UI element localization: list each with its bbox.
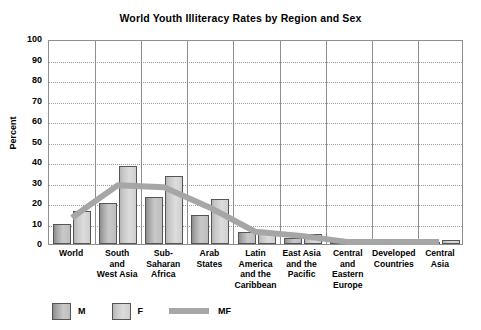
x-label-line: Central	[333, 248, 363, 258]
legend-item-mf: MF	[169, 306, 231, 316]
chart-title: World Youth Illiteracy Rates by Region a…	[0, 12, 481, 24]
x-axis-category-labels: WorldSouthandWest AsiaSub-SaharanAfricaA…	[48, 248, 463, 306]
y-tick-label: 40	[8, 157, 42, 167]
x-label-line: and	[340, 259, 355, 269]
x-label-line: and the	[240, 269, 271, 279]
x-label-line: America	[239, 259, 273, 269]
y-tick-label: 0	[8, 239, 42, 249]
x-label-line: Sub-	[154, 248, 173, 258]
x-label-3: ArabStates	[183, 248, 235, 269]
mf-polyline	[72, 185, 439, 242]
legend-swatch-m-icon	[52, 303, 71, 320]
x-label-line: Pacific	[288, 269, 316, 279]
legend-item-f: F	[112, 303, 144, 320]
x-label-6: CentralandEasternEurope	[322, 248, 374, 290]
x-label-line: Developed	[372, 248, 415, 258]
x-label-7: DevelopedCountries	[368, 248, 420, 269]
y-tick-label: 50	[8, 137, 42, 147]
y-tick-label: 80	[8, 75, 42, 85]
x-label-line: Europe	[333, 280, 363, 290]
x-label-2: Sub-SaharanAfrica	[137, 248, 189, 280]
x-label-0: World	[45, 248, 97, 259]
legend-swatch-mf-icon	[169, 308, 209, 314]
x-label-line: Africa	[151, 269, 175, 279]
legend-label-f: F	[138, 306, 144, 316]
y-tick-label: 10	[8, 219, 42, 229]
x-label-line: Saharan	[146, 259, 180, 269]
x-label-line: Eastern	[332, 269, 364, 279]
x-label-line: and the	[286, 259, 317, 269]
y-tick-label: 100	[8, 34, 42, 44]
chart-container: World Youth Illiteracy Rates by Region a…	[0, 0, 481, 330]
x-label-line: States	[196, 259, 222, 269]
x-label-line: Caribbean	[234, 280, 276, 290]
x-label-line: Arab	[200, 248, 220, 258]
x-label-1: SouthandWest Asia	[91, 248, 143, 280]
legend-swatch-f-icon	[112, 303, 131, 320]
x-label-line: Latin	[245, 248, 266, 258]
y-tick-label: 20	[8, 198, 42, 208]
y-tick-label: 90	[8, 55, 42, 65]
mf-trend-line	[49, 41, 462, 244]
legend-item-m: M	[52, 303, 86, 320]
x-label-line: World	[59, 248, 83, 258]
plot-area	[48, 40, 463, 245]
x-label-line: Countries	[374, 259, 414, 269]
y-tick-label: 30	[8, 178, 42, 188]
x-label-line: West Asia	[97, 269, 138, 279]
x-label-line: East Asia	[282, 248, 320, 258]
legend-label-mf: MF	[218, 306, 231, 316]
y-axis-title: Percent	[8, 103, 18, 163]
legend-label-m: M	[78, 306, 86, 316]
x-label-line: Central	[425, 248, 455, 258]
x-label-4: LatinAmericaand theCaribbean	[229, 248, 281, 290]
x-label-5: East Asiaand thePacific	[276, 248, 328, 280]
y-tick-label: 60	[8, 116, 42, 126]
x-label-line: Asia	[431, 259, 449, 269]
x-label-line: South	[105, 248, 129, 258]
x-label-8: CentralAsia	[414, 248, 466, 269]
x-label-line: and	[110, 259, 125, 269]
y-tick-label: 70	[8, 96, 42, 106]
chart-legend: M F MF	[52, 300, 257, 322]
